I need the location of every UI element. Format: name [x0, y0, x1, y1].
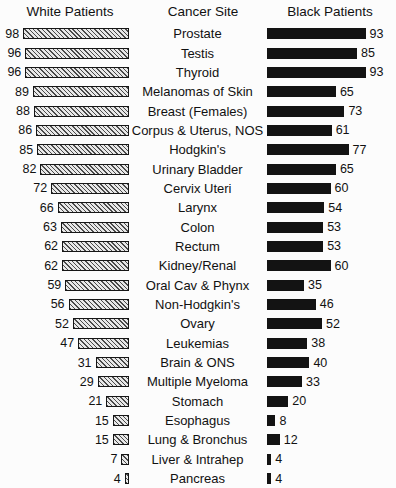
- chart-row: 59Oral Cav & Phynx35: [0, 275, 396, 294]
- chart-row: 56Non-Hodgkin's46: [0, 295, 396, 314]
- black-patients-bar: [267, 125, 332, 136]
- chart-row: 96Thyroid93: [0, 63, 396, 82]
- white-patients-value: 62: [44, 239, 58, 253]
- black-patients-value: 38: [311, 336, 325, 350]
- white-patients-cell: 98: [0, 24, 129, 43]
- white-patients-cell: 52: [0, 314, 129, 333]
- white-patients-cell: 72: [0, 179, 129, 198]
- chart-row: 89Melanomas of Skin65: [0, 82, 396, 101]
- black-patients-cell: 85: [267, 43, 396, 62]
- white-patients-value: 29: [80, 375, 94, 389]
- white-patients-value: 7: [111, 452, 118, 466]
- black-patients-value: 46: [320, 297, 334, 311]
- white-patients-bar: [36, 125, 129, 136]
- white-patients-cell: 88: [0, 101, 129, 120]
- white-patients-bar: [25, 67, 129, 78]
- cancer-site-cell: Kidney/Renal: [131, 256, 264, 275]
- white-patients-bar: [98, 376, 129, 387]
- cancer-site-label: Brain & ONS: [160, 355, 234, 370]
- cancer-site-cell: Corpus & Uterus, NOS: [131, 121, 264, 140]
- white-patients-bar: [25, 48, 129, 59]
- white-patients-cell: 29: [0, 372, 129, 391]
- black-patients-bar: [267, 222, 323, 233]
- header-cancer-site: Cancer Site: [142, 3, 264, 20]
- black-patients-value: 60: [335, 181, 349, 195]
- black-patients-value: 8: [279, 414, 286, 428]
- cancer-site-label: Kidney/Renal: [159, 258, 236, 273]
- chart-row: 86Corpus & Uterus, NOS61: [0, 121, 396, 140]
- black-patients-bar: [267, 434, 280, 445]
- white-patients-value: 98: [5, 27, 19, 41]
- header-black-patients: Black Patients: [264, 3, 396, 20]
- black-patients-bar: [267, 48, 357, 59]
- black-patients-cell: 65: [267, 159, 396, 178]
- white-patients-bar: [106, 396, 129, 407]
- cancer-site-label: Cervix Uteri: [164, 181, 232, 196]
- cancer-site-label: Corpus & Uterus, NOS: [132, 123, 264, 138]
- black-patients-cell: 61: [267, 121, 396, 140]
- black-patients-cell: 8: [267, 411, 396, 430]
- black-patients-cell: 77: [267, 140, 396, 159]
- black-patients-bar: [267, 28, 366, 39]
- black-patients-cell: 93: [267, 24, 396, 43]
- chart-row: 62Kidney/Renal60: [0, 256, 396, 275]
- white-patients-value: 96: [7, 46, 21, 60]
- black-patients-cell: 93: [267, 63, 396, 82]
- white-patients-value: 21: [88, 394, 102, 408]
- cancer-site-cell: Melanomas of Skin: [131, 82, 264, 101]
- black-patients-cell: 46: [267, 295, 396, 314]
- white-patients-cell: 15: [0, 430, 129, 449]
- black-patients-bar: [267, 280, 304, 291]
- cancer-site-label: Ovary: [180, 316, 215, 331]
- white-patients-value: 85: [19, 143, 33, 157]
- cancer-site-label: Esophagus: [165, 413, 230, 428]
- chart-row: 52Ovary52: [0, 314, 396, 333]
- cancer-site-label: Melanomas of Skin: [142, 84, 253, 99]
- column-headers: White Patients Cancer Site Black Patient…: [0, 0, 396, 24]
- white-patients-bar: [23, 28, 129, 39]
- cancer-site-cell: Lung & Bronchus: [131, 430, 264, 449]
- white-patients-bar: [33, 86, 129, 97]
- cancer-site-cell: Ovary: [131, 314, 264, 333]
- white-patients-bar: [51, 183, 129, 194]
- white-patients-value: 96: [7, 65, 21, 79]
- black-patients-bar: [267, 183, 331, 194]
- white-patients-bar: [58, 202, 129, 213]
- cancer-site-label: Thyroid: [176, 65, 219, 80]
- black-patients-cell: 12: [267, 430, 396, 449]
- white-patients-value: 86: [18, 123, 32, 137]
- white-patients-bar: [34, 106, 129, 117]
- black-patients-cell: 20: [267, 392, 396, 411]
- white-patients-value: 66: [40, 201, 54, 215]
- cancer-site-cell: Liver & Intrahep: [131, 450, 264, 469]
- header-white-patients: White Patients: [0, 3, 140, 20]
- black-patients-bar: [267, 396, 288, 407]
- black-patients-bar: [267, 144, 349, 155]
- cancer-site-cell: Rectum: [131, 237, 264, 256]
- cancer-site-cell: Stomach: [131, 392, 264, 411]
- black-patients-cell: 33: [267, 372, 396, 391]
- black-patients-bar: [267, 86, 336, 97]
- cancer-site-cell: Testis: [131, 43, 264, 62]
- black-patients-cell: 54: [267, 198, 396, 217]
- white-patients-cell: 56: [0, 295, 129, 314]
- white-patients-value: 88: [16, 104, 30, 118]
- black-patients-bar: [267, 106, 344, 117]
- chart-row: 15Esophagus8: [0, 411, 396, 430]
- chart-row: 66Larynx54: [0, 198, 396, 217]
- black-patients-bar: [267, 415, 275, 426]
- black-patients-value: 93: [370, 27, 384, 41]
- white-patients-value: 72: [33, 181, 47, 195]
- white-patients-cell: 85: [0, 140, 129, 159]
- black-patients-value: 85: [361, 46, 375, 60]
- cancer-site-label: Breast (Females): [148, 104, 248, 119]
- black-patients-value: 77: [353, 143, 367, 157]
- black-patients-value: 20: [292, 394, 306, 408]
- black-patients-value: 60: [335, 259, 349, 273]
- white-patients-cell: 82: [0, 159, 129, 178]
- black-patients-cell: 35: [267, 275, 396, 294]
- chart-row: 82Urinary Bladder65: [0, 159, 396, 178]
- chart-row: 85Hodgkin's77: [0, 140, 396, 159]
- chart-row: 96Testis85: [0, 43, 396, 62]
